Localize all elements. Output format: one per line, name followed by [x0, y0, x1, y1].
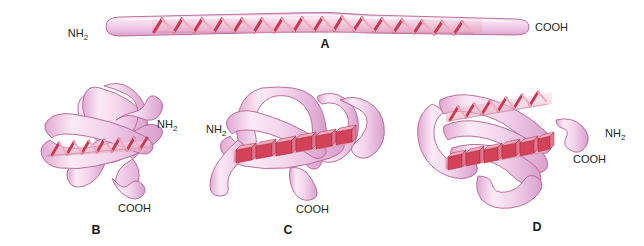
panel-a-c-terminus-label: COOH [535, 21, 568, 33]
panel-c-c-terminus-label: COOH [296, 203, 329, 215]
panel-letter-c: C [283, 223, 292, 237]
protein-structure-figure: NH2 COOH A [0, 0, 644, 246]
panel-letter-d: D [532, 220, 541, 234]
figure-canvas: NH2 COOH A [0, 0, 644, 246]
panel-letter-a: A [320, 37, 329, 51]
panel-b-c-terminus-label: COOH [118, 202, 151, 214]
alpha-helix-a [152, 17, 482, 34]
panel-letter-b: B [91, 223, 100, 237]
panel-d-c-terminus-label: COOH [573, 153, 606, 165]
